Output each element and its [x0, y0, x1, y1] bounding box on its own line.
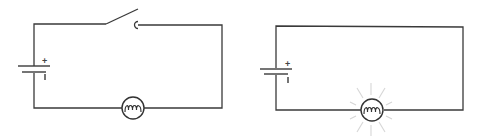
open-circuit: + — [18, 9, 222, 119]
wire-right — [138, 25, 222, 108]
closed-circuit: + — [260, 26, 463, 136]
wire-bottom-left — [34, 73, 122, 108]
wire-top-right — [276, 26, 463, 110]
positive-sign: + — [42, 56, 47, 66]
switch-open-icon — [106, 9, 138, 29]
positive-sign: + — [285, 59, 290, 69]
wire-bottom-left — [276, 75, 361, 110]
wires — [276, 26, 463, 110]
switch-contact — [135, 22, 139, 29]
wires — [34, 24, 222, 108]
circuit-diagrams: + + — [0, 0, 479, 138]
lightbulb-off-icon — [122, 97, 144, 119]
switch-lever — [106, 9, 138, 24]
